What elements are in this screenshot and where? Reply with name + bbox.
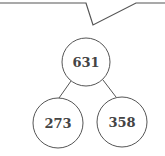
right-child-value: 358	[108, 115, 135, 130]
connector-right	[103, 80, 116, 97]
speech-bubble-edge	[0, 3, 165, 25]
left-child-value: 273	[44, 116, 71, 131]
connector-left	[59, 81, 71, 98]
root-node-value: 631	[72, 55, 99, 70]
left-child-node: 273	[33, 98, 83, 148]
right-child-node: 358	[97, 97, 147, 147]
root-node: 631	[62, 38, 110, 86]
number-bond-diagram: 631 273 358	[0, 0, 165, 156]
